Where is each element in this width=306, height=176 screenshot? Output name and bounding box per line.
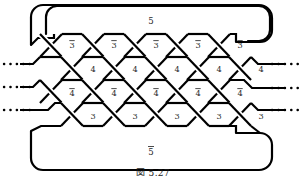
figure-root: 5 5 3 3 3 3 3 4 4 4 4 4 4 4 4 4 4 — [0, 0, 306, 176]
svg-text:4: 4 — [153, 88, 158, 98]
svg-text:4: 4 — [237, 88, 242, 98]
row-1-label-1: 3 — [111, 40, 116, 50]
svg-text:3: 3 — [69, 40, 74, 50]
figure-caption: 図 5.27 — [0, 167, 306, 176]
braid-row-1 — [31, 34, 236, 57]
bottom-closure-label-text: 5 — [148, 147, 153, 157]
row-1-label-2: 3 — [153, 40, 158, 50]
top-closure-label: 5 — [148, 16, 153, 26]
row-2-label-4: 4 — [258, 64, 263, 74]
row-3-label-1: 4 — [111, 88, 116, 98]
row-3-label-0: 4 — [69, 88, 74, 98]
row-4-label-4: 3 — [258, 111, 263, 121]
row-4-label-0: 3 — [90, 111, 95, 121]
row-4-label-1: 3 — [132, 111, 137, 121]
svg-text:4: 4 — [69, 88, 74, 98]
bottom-closure-label: 5 — [148, 147, 154, 157]
row-3-label-2: 4 — [153, 88, 158, 98]
row-3-label-3: 4 — [195, 88, 200, 98]
row-3-label-4: 4 — [237, 88, 242, 98]
braid-row-2 — [20, 57, 286, 80]
knot-braid-diagram: 5 5 3 3 3 3 3 4 4 4 4 4 4 4 4 4 4 — [0, 0, 306, 176]
row-1-label-0: 3 — [69, 40, 74, 50]
row-2-label-0: 4 — [90, 64, 95, 74]
row-2-label-1: 4 — [132, 64, 137, 74]
dotted-lines-left — [4, 64, 34, 110]
svg-text:3: 3 — [237, 40, 242, 50]
row-2-label-2: 4 — [174, 64, 179, 74]
svg-text:3: 3 — [153, 40, 158, 50]
svg-text:4: 4 — [111, 88, 116, 98]
svg-text:3: 3 — [111, 40, 116, 50]
braid-row-4 — [20, 103, 286, 133]
svg-text:4: 4 — [195, 88, 200, 98]
row-2-label-3: 4 — [216, 64, 221, 74]
row-1-label-3: 3 — [195, 40, 200, 50]
row-4-label-3: 3 — [216, 111, 221, 121]
row-4-label-2: 3 — [174, 111, 179, 121]
row-1-label-4: 3 — [237, 40, 242, 50]
svg-text:3: 3 — [195, 40, 200, 50]
top-closure-label-text: 5 — [148, 16, 153, 26]
